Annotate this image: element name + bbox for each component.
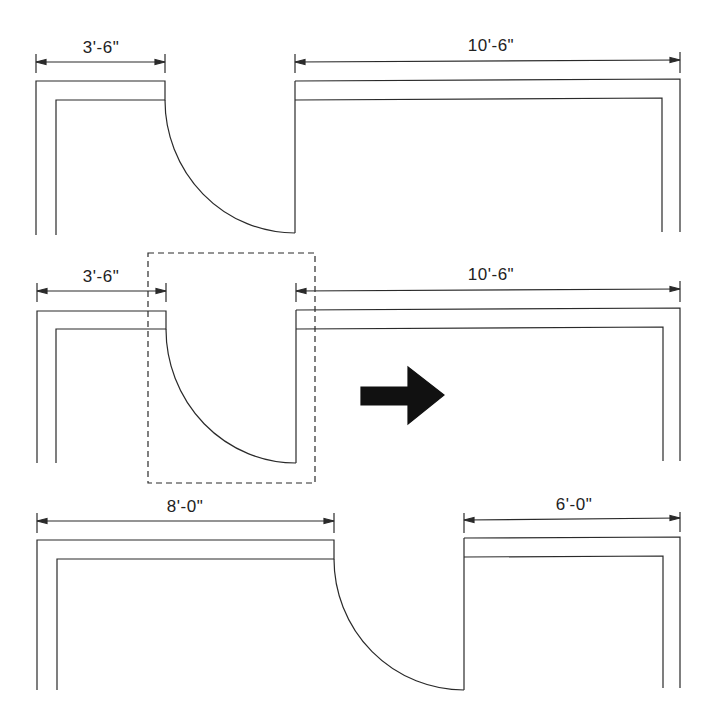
panel-original	[36, 52, 680, 235]
dimension-label: 3'-6"	[83, 38, 119, 58]
door-swing	[166, 310, 296, 463]
floor-plan-diagram: 3'-6" 10'-6" 3'-6" 10'-6" 8'-0" 6'-0"	[0, 0, 708, 714]
dimension-label: 8'-0"	[167, 497, 203, 517]
drawing	[0, 0, 708, 714]
wall-right	[295, 79, 680, 232]
door-swing	[165, 81, 295, 233]
dimension-label: 10'-6"	[468, 265, 514, 285]
wall-left	[36, 81, 165, 235]
dashed-selection-box[interactable]	[148, 253, 315, 483]
dimension-label: 10'-6"	[468, 36, 514, 56]
panel-selected	[37, 253, 680, 483]
right-arrow-icon	[361, 367, 444, 424]
dimension-label: 6'-0"	[556, 495, 592, 515]
dimension-right	[464, 512, 680, 533]
wall-left	[37, 540, 334, 690]
wall-left	[37, 311, 166, 463]
panel-moved	[37, 512, 680, 690]
wall-right	[464, 537, 680, 688]
door-swing	[334, 538, 464, 690]
wall-right	[296, 308, 680, 461]
dimension-label: 3'-6"	[83, 267, 119, 287]
